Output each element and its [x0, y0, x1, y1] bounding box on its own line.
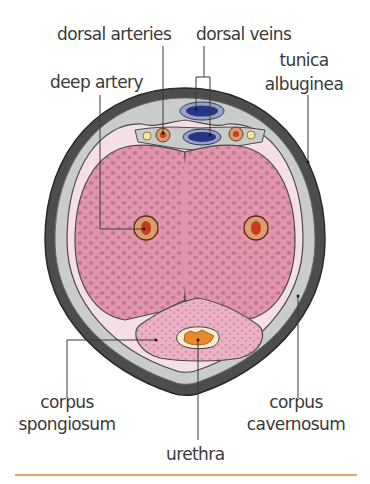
label-dorsal-arteries: dorsal arteries [57, 24, 171, 44]
label-cavernosum-line1: corpus [242, 392, 350, 412]
label-spongiosum-line1: corpus [12, 392, 122, 412]
label-urethra: urethra [166, 444, 225, 464]
label-corpus-cavernosum: corpus cavernosum [242, 392, 350, 434]
label-dorsal-veins: dorsal veins [196, 24, 291, 44]
label-tunica-albuginea: tunica albuginea [262, 50, 346, 94]
label-tunica-line2: albuginea [262, 74, 346, 94]
label-deep-artery: deep artery [50, 72, 143, 92]
label-cavernosum-line2: cavernosum [242, 414, 350, 434]
dorsal-nerve-left [143, 132, 151, 140]
label-tunica-line1: tunica [262, 50, 346, 70]
label-spongiosum-line2: spongiosum [12, 414, 122, 434]
divider-rule [15, 474, 357, 476]
label-corpus-spongiosum: corpus spongiosum [12, 392, 122, 434]
dorsal-nerve-right [247, 131, 255, 139]
